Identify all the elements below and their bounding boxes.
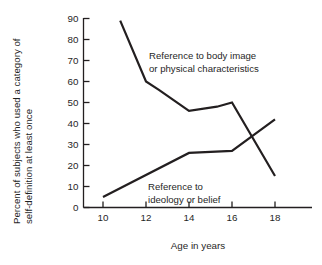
annotation-body-image-line-2: or physical characteristics xyxy=(149,63,259,74)
y-axis-tick-marks xyxy=(84,19,90,208)
y-axis-title-line-2: self-definition at least once xyxy=(23,109,34,224)
y-tick-label-80: 80 xyxy=(68,34,79,45)
x-tick-label-18: 18 xyxy=(270,212,281,223)
x-tick-label-10: 10 xyxy=(98,212,109,223)
x-tick-label-12: 12 xyxy=(141,212,152,223)
y-tick-label-70: 70 xyxy=(68,55,79,66)
x-tick-label-14: 14 xyxy=(184,212,195,223)
y-tick-label-40: 40 xyxy=(68,118,79,129)
annotation-body-image-line-1: Reference to body image xyxy=(149,50,256,61)
y-tick-label-50: 50 xyxy=(68,97,79,108)
x-tick-label-16: 16 xyxy=(227,212,238,223)
y-axis-tick-labels: 0102030405060708090 xyxy=(68,13,79,213)
y-axis-title-line-1: Percent of subjects who used a category … xyxy=(11,38,22,224)
y-tick-label-0: 0 xyxy=(73,202,79,213)
x-axis-tick-labels: 1012141618 xyxy=(98,212,281,223)
y-tick-label-90: 90 xyxy=(68,13,79,24)
y-tick-label-60: 60 xyxy=(68,76,79,87)
x-axis-title: Age in years xyxy=(171,240,226,251)
y-tick-label-10: 10 xyxy=(68,181,79,192)
y-axis-title: Percent of subjects who used a category … xyxy=(0,0,62,240)
chart-figure: Percent of subjects who used a category … xyxy=(0,0,322,265)
annotation-ideology-line-1: Reference to xyxy=(148,181,203,192)
annotation-ideology-line-2: ideology or belief xyxy=(148,194,221,205)
y-tick-label-30: 30 xyxy=(68,139,79,150)
y-tick-label-20: 20 xyxy=(68,160,79,171)
